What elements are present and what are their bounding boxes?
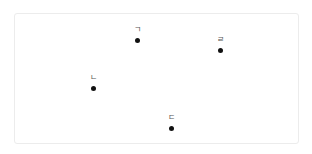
- point-dot: [91, 86, 96, 91]
- point-label: ㄴ: [88, 74, 98, 82]
- diagram-frame: [14, 13, 299, 144]
- point-label: ㄹ: [215, 36, 225, 44]
- point-dot: [218, 48, 223, 53]
- point-label: ㄱ: [132, 26, 142, 34]
- point-label: ㄷ: [166, 114, 176, 122]
- point-dot: [169, 126, 174, 131]
- point-dot: [135, 38, 140, 43]
